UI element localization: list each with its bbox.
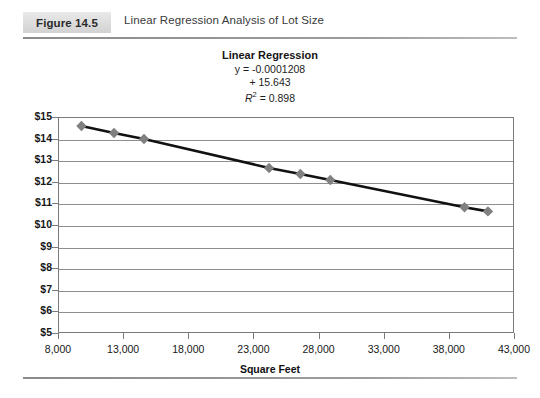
x-axis-tick-mark (384, 333, 385, 339)
y-axis-tick-label: $13 (10, 153, 52, 165)
x-axis-tick-label: 23,000 (223, 343, 283, 355)
footer-divider (23, 377, 517, 379)
y-axis-tick-label: $12 (10, 175, 52, 187)
y-axis-tick-mark (52, 268, 58, 269)
x-axis-tick-mark (123, 333, 124, 339)
data-point-marker (139, 134, 149, 144)
y-axis-tick-label: $15 (10, 110, 52, 122)
y-axis-tick-mark (52, 203, 58, 204)
data-point-marker (109, 128, 119, 138)
x-axis-tick-mark (253, 333, 254, 339)
x-axis-tick-label: 38,000 (419, 343, 479, 355)
y-axis-tick-mark (52, 225, 58, 226)
y-axis-tick-label: $6 (10, 304, 52, 316)
x-axis-tick-mark (514, 333, 515, 339)
x-axis-tick-label: 13,000 (93, 343, 153, 355)
y-axis-tick-label: $11 (10, 196, 52, 208)
data-point-marker (264, 163, 274, 173)
y-axis-tick-mark (52, 160, 58, 161)
y-axis-tick-mark (52, 139, 58, 140)
y-axis-tick-label: $9 (10, 240, 52, 252)
x-axis-tick-label: 33,000 (354, 343, 414, 355)
x-axis-tick-mark (188, 333, 189, 339)
x-axis-tick-mark (58, 333, 59, 339)
y-axis-tick-mark (52, 311, 58, 312)
y-axis-tick-mark (52, 247, 58, 248)
data-point-marker (76, 121, 86, 131)
regression-chart: Square Feet $15$14$13$12$11$10$9$8$7$6$5… (0, 0, 540, 398)
x-axis-tick-label: 28,000 (289, 343, 349, 355)
x-axis-tick-label: 43,000 (484, 343, 540, 355)
data-point-marker (295, 169, 305, 179)
x-axis-title: Square Feet (0, 363, 540, 375)
data-point-marker (483, 206, 493, 216)
y-axis-tick-label: $10 (10, 218, 52, 230)
x-axis-tick-mark (319, 333, 320, 339)
x-axis-tick-label: 8,000 (28, 343, 88, 355)
y-axis-tick-mark (52, 290, 58, 291)
y-axis-tick-mark (52, 182, 58, 183)
x-axis-tick-mark (449, 333, 450, 339)
data-point-marker (325, 175, 335, 185)
y-axis-tick-label: $8 (10, 261, 52, 273)
y-axis-tick-label: $14 (10, 132, 52, 144)
data-series-layer (58, 117, 514, 333)
y-axis-tick-label: $7 (10, 283, 52, 295)
y-axis-tick-label: $5 (10, 326, 52, 338)
y-axis-tick-mark (52, 117, 58, 118)
x-axis-tick-label: 18,000 (158, 343, 218, 355)
data-point-marker (459, 202, 469, 212)
